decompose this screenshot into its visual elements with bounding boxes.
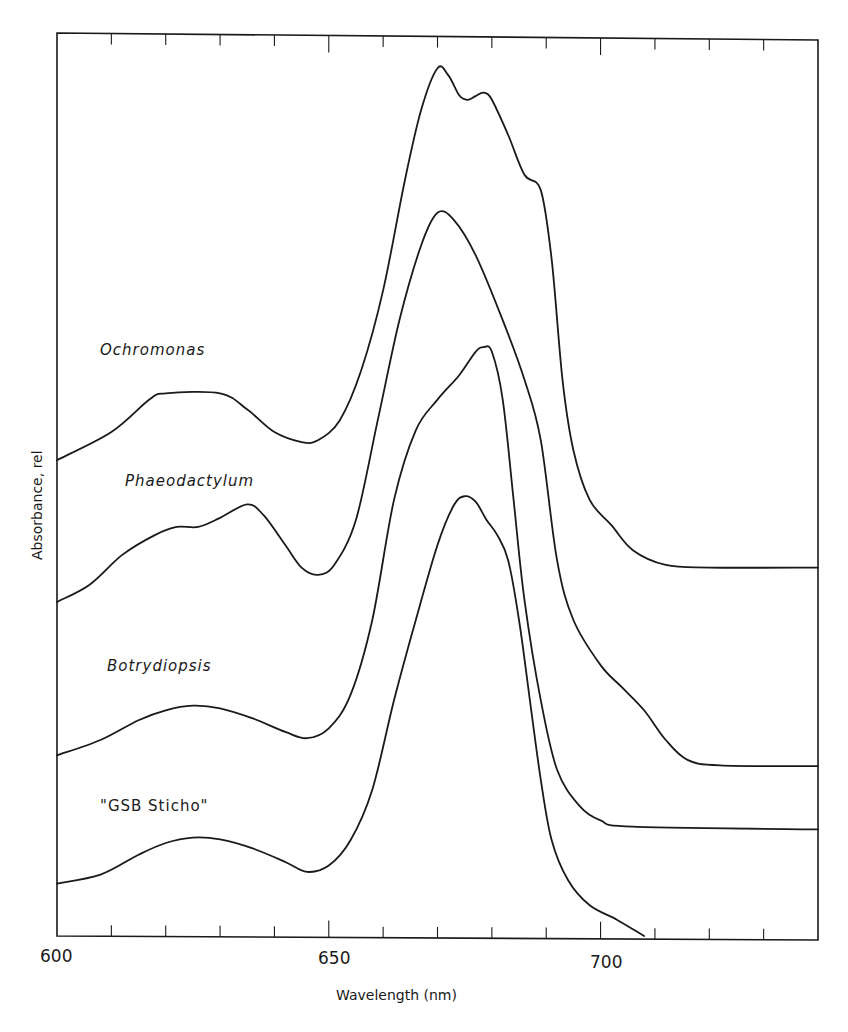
curve-ochromonas bbox=[57, 66, 818, 567]
series-label-phaeodactylum: Phaeodactylum bbox=[125, 472, 254, 490]
x-tick-label-650: 650 bbox=[318, 948, 350, 968]
series-labels: OchromonasPhaeodactylumBotrydiopsis"GSB … bbox=[100, 341, 254, 815]
x-tick-label-700: 700 bbox=[590, 952, 622, 972]
x-axis-title: Wavelength (nm) bbox=[336, 987, 457, 1003]
curve-gsb-sticho bbox=[57, 496, 644, 936]
series-label-ochromonas: Ochromonas bbox=[100, 341, 205, 359]
absorbance-spectra-chart: OchromonasPhaeodactylumBotrydiopsis"GSB … bbox=[0, 0, 848, 1032]
curve-botrydiopsis bbox=[57, 346, 818, 829]
y-axis-title: Absorbance, rel bbox=[29, 450, 45, 560]
series-label-botrydiopsis: Botrydiopsis bbox=[107, 657, 212, 675]
series-label-gsb-sticho: "GSB Sticho" bbox=[100, 797, 209, 815]
x-tick-label-600: 600 bbox=[40, 946, 72, 966]
